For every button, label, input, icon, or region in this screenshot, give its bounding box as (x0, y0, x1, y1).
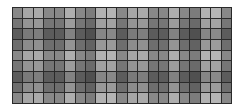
mosaic-cell (169, 83, 178, 93)
mosaic-cell (76, 61, 85, 71)
mosaic-cell (138, 51, 147, 61)
mosaic-cell (159, 51, 168, 61)
mosaic-cell (211, 61, 220, 71)
mosaic-cell (117, 29, 126, 39)
mosaic-cell (169, 72, 178, 82)
mosaic-cell (128, 40, 137, 50)
mosaic-cell (180, 29, 189, 39)
mosaic-cell (211, 51, 220, 61)
mosaic-cell (117, 40, 126, 50)
mosaic-cell (180, 8, 189, 18)
mosaic-cell (169, 19, 178, 29)
mosaic-cell (190, 51, 199, 61)
mosaic-cell (138, 8, 147, 18)
mosaic-cell (128, 61, 137, 71)
mosaic-cell (55, 40, 64, 50)
mosaic-cell (55, 29, 64, 39)
mosaic-cell (13, 8, 22, 18)
mosaic-cell (128, 8, 137, 18)
mosaic-cell (23, 19, 32, 29)
mosaic-cell (211, 83, 220, 93)
mosaic-cell (169, 40, 178, 50)
mosaic-cell (201, 29, 210, 39)
mosaic-cell (128, 29, 137, 39)
mosaic-cell (190, 29, 199, 39)
mosaic-cell (86, 51, 95, 61)
mosaic-cell (86, 40, 95, 50)
mosaic-cell (159, 29, 168, 39)
mosaic-cell (159, 40, 168, 50)
mosaic-cell (159, 61, 168, 71)
mosaic-cell (23, 61, 32, 71)
mosaic-cell (190, 72, 199, 82)
mosaic-cell (44, 19, 53, 29)
mosaic-cell (138, 61, 147, 71)
mosaic-cell (34, 83, 43, 93)
mosaic-cell (107, 29, 116, 39)
mosaic-cell (55, 93, 64, 103)
mosaic-cell (211, 19, 220, 29)
mosaic-cell (65, 19, 74, 29)
mosaic-cell (180, 93, 189, 103)
mosaic-cell (23, 51, 32, 61)
mosaic-cell (222, 8, 231, 18)
mosaic-cell (201, 61, 210, 71)
mosaic-cell (201, 93, 210, 103)
mosaic-cell (222, 40, 231, 50)
mosaic-cell (222, 29, 231, 39)
mosaic-cell (55, 8, 64, 18)
mosaic-cell (34, 40, 43, 50)
mosaic-cell (44, 8, 53, 18)
mosaic-cell (138, 83, 147, 93)
mosaic-cell (65, 83, 74, 93)
mosaic-cell (117, 19, 126, 29)
mosaic-cell (107, 8, 116, 18)
mosaic-cell (76, 93, 85, 103)
mosaic-cell (180, 51, 189, 61)
mosaic-cell (201, 72, 210, 82)
mosaic-cell (13, 51, 22, 61)
mosaic-cell (211, 29, 220, 39)
mosaic-cell (222, 19, 231, 29)
mosaic-cell (107, 93, 116, 103)
mosaic-cell (55, 83, 64, 93)
mosaic-cell (86, 19, 95, 29)
mosaic-cell (107, 40, 116, 50)
grayscale-mosaic-grid (12, 7, 232, 104)
mosaic-cell (96, 40, 105, 50)
mosaic-cell (149, 51, 158, 61)
mosaic-cell (86, 61, 95, 71)
mosaic-cell (107, 72, 116, 82)
mosaic-cell (180, 61, 189, 71)
mosaic-cell (76, 72, 85, 82)
mosaic-cell (34, 72, 43, 82)
mosaic-cell (180, 19, 189, 29)
mosaic-cell (211, 8, 220, 18)
mosaic-cell (86, 8, 95, 18)
mosaic-cell (96, 51, 105, 61)
mosaic-cell (86, 29, 95, 39)
mosaic-cell (117, 51, 126, 61)
mosaic-cell (44, 51, 53, 61)
mosaic-cell (211, 40, 220, 50)
mosaic-cell (44, 61, 53, 71)
mosaic-cell (13, 40, 22, 50)
mosaic-cell (117, 83, 126, 93)
mosaic-cell (76, 40, 85, 50)
mosaic-cell (149, 40, 158, 50)
mosaic-cell (169, 61, 178, 71)
mosaic-cell (13, 93, 22, 103)
mosaic-cell (13, 29, 22, 39)
mosaic-cell (211, 93, 220, 103)
mosaic-cell (180, 83, 189, 93)
mosaic-cell (190, 61, 199, 71)
mosaic-cell (96, 8, 105, 18)
mosaic-cell (86, 83, 95, 93)
mosaic-cell (201, 8, 210, 18)
mosaic-cell (138, 29, 147, 39)
mosaic-cell (65, 29, 74, 39)
mosaic-cell (169, 51, 178, 61)
mosaic-cell (211, 72, 220, 82)
mosaic-cell (117, 61, 126, 71)
mosaic-cell (96, 29, 105, 39)
